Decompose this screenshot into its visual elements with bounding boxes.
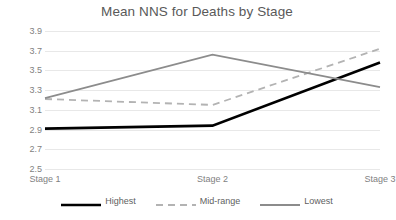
x-axis-tick-label: Stage 1: [29, 174, 60, 184]
legend-label: Lowest: [304, 196, 333, 206]
y-axis-tick-label: 3.9: [2, 26, 42, 36]
y-axis-tick-label: 3.1: [2, 105, 42, 115]
legend-swatch-icon: [61, 196, 101, 206]
legend-label: Mid-range: [200, 196, 241, 206]
y-axis-tick-label: 2.9: [2, 125, 42, 135]
y-axis-tick-label: 3.7: [2, 46, 42, 56]
x-axis-tick-label: Stage 3: [364, 174, 395, 184]
series-lines: [45, 31, 380, 169]
y-axis-tick-label: 3.3: [2, 85, 42, 95]
legend-swatch-icon: [260, 196, 300, 206]
series-line-lowest: [45, 55, 380, 98]
legend-item-lowest[interactable]: Lowest: [260, 196, 333, 206]
legend-item-highest[interactable]: Highest: [61, 196, 136, 206]
y-axis-tick-label: 2.5: [2, 164, 42, 174]
x-axis-tick-label: Stage 2: [197, 174, 228, 184]
y-axis-tick-label: 2.7: [2, 144, 42, 154]
y-axis-tick-label: 3.5: [2, 65, 42, 75]
legend-item-mid-range[interactable]: Mid-range: [156, 196, 241, 206]
chart-legend: HighestMid-rangeLowest: [0, 196, 394, 206]
plot-area: [45, 31, 380, 169]
chart-title: Mean NNS for Deaths by Stage: [0, 4, 394, 19]
gridline: [45, 169, 380, 170]
legend-label: Highest: [105, 196, 136, 206]
series-line-highest: [45, 63, 380, 129]
legend-swatch-icon: [156, 196, 196, 206]
